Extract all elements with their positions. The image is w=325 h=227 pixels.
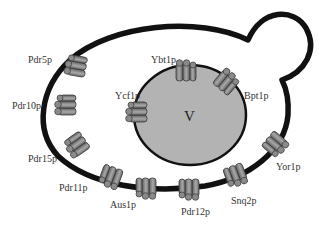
- label-pdr5p: Pdr5p: [28, 54, 52, 65]
- transporter-ycf1p: [126, 102, 147, 122]
- label-snq2p: Snq2p: [231, 195, 257, 206]
- vacuole-label: V: [184, 108, 195, 124]
- label-pdr15p: Pdr15p: [28, 153, 57, 164]
- transporter-pdr12p: [179, 179, 199, 200]
- label-pdr12p: Pdr12p: [181, 206, 210, 217]
- cell-diagram: V Pdr5p Pdr10p Pdr15p Pdr11p Aus1p Pdr12…: [0, 0, 325, 227]
- transporter-snq2p: [223, 162, 249, 189]
- label-aus1p: Aus1p: [110, 199, 136, 210]
- label-pdr10p: Pdr10p: [12, 100, 41, 111]
- transporter-pdr15p: [62, 131, 91, 160]
- transporter-ybt1p: [176, 60, 196, 81]
- label-pdr11p: Pdr11p: [59, 182, 88, 193]
- label-ybt1p: Ybt1p: [151, 54, 176, 65]
- label-ycf1p: Ycf1p: [115, 90, 140, 101]
- label-bpt1p: Bpt1p: [244, 90, 268, 101]
- label-yor1p: Yor1p: [276, 161, 301, 172]
- transporter-pdr10p: [55, 95, 76, 115]
- transporter-aus1p: [136, 178, 156, 199]
- transporter-pdr5p: [63, 54, 87, 77]
